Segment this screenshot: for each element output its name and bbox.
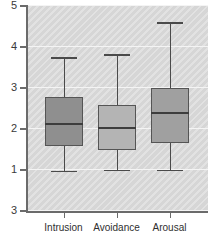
y-tick-label-4: 4 <box>0 41 17 52</box>
whisker-cap-upper-intrusion <box>51 57 77 59</box>
median-line-arousal <box>151 112 189 114</box>
median-line-avoidance <box>98 127 136 129</box>
x-tick-label-arousal: Arousal <box>134 222 205 234</box>
x-tick-mark-arousal <box>170 212 172 218</box>
gridline-4 <box>27 46 208 47</box>
whisker-cap-upper-avoidance <box>104 54 130 56</box>
whisker-cap-lower-intrusion <box>51 171 77 173</box>
median-line-intrusion <box>45 123 83 125</box>
y-tick-mark-4 <box>20 46 26 48</box>
whisker-cap-lower-avoidance <box>104 170 130 172</box>
y-tick-label-1: 1 <box>0 164 17 175</box>
y-axis-line <box>26 5 28 213</box>
y-tick-label-2: 2 <box>0 123 17 134</box>
y-tick-mark-1 <box>20 169 26 171</box>
y-tick-mark-5 <box>20 5 26 7</box>
x-tick-mark-avoidance <box>117 212 119 218</box>
y-tick-label-3: 3 <box>0 82 17 93</box>
y-tick-mark-0 <box>20 210 26 212</box>
box-arousal <box>151 88 189 143</box>
x-tick-mark-intrusion <box>64 212 66 218</box>
y-tick-label-5: 5 <box>0 0 17 11</box>
boxplot-chart: 5 4 3 2 1 3 Intrusion Avoidance Arousal <box>0 0 211 238</box>
y-tick-mark-3 <box>20 87 26 89</box>
whisker-cap-lower-arousal <box>157 170 183 172</box>
whisker-cap-upper-arousal <box>157 22 183 24</box>
box-intrusion <box>45 97 83 146</box>
y-tick-mark-2 <box>20 128 26 130</box>
gridline-5 <box>27 5 208 6</box>
y-tick-label-0: 3 <box>0 205 17 216</box>
